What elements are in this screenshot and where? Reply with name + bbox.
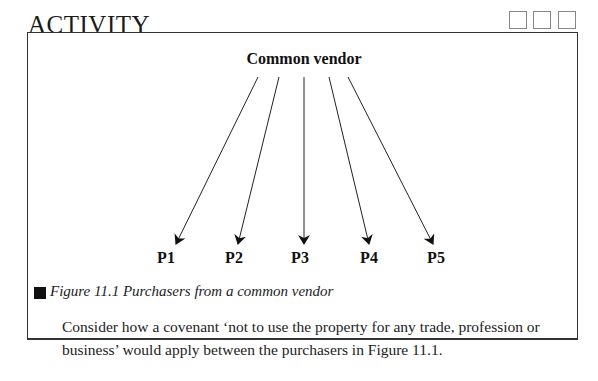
arrow-to-p1 <box>176 77 258 244</box>
purchaser-p1: P1 <box>157 249 175 266</box>
vendor-label: Common vendor <box>246 50 361 67</box>
arrow-to-p5 <box>348 77 433 244</box>
purchaser-p3: P3 <box>291 249 309 266</box>
purchaser-p4: P4 <box>360 249 378 266</box>
figure-caption: Figure 11.1 Purchasers from a common ven… <box>50 283 333 300</box>
purchaser-p2: P2 <box>225 249 243 266</box>
arrow-to-p4 <box>329 77 369 244</box>
activity-body-text: Consider how a covenant ‘not to use the … <box>62 315 542 361</box>
arrows <box>176 77 433 244</box>
purchaser-p5: P5 <box>427 249 445 266</box>
arrow-to-p2 <box>238 77 279 244</box>
caption-marker-icon <box>34 287 46 299</box>
